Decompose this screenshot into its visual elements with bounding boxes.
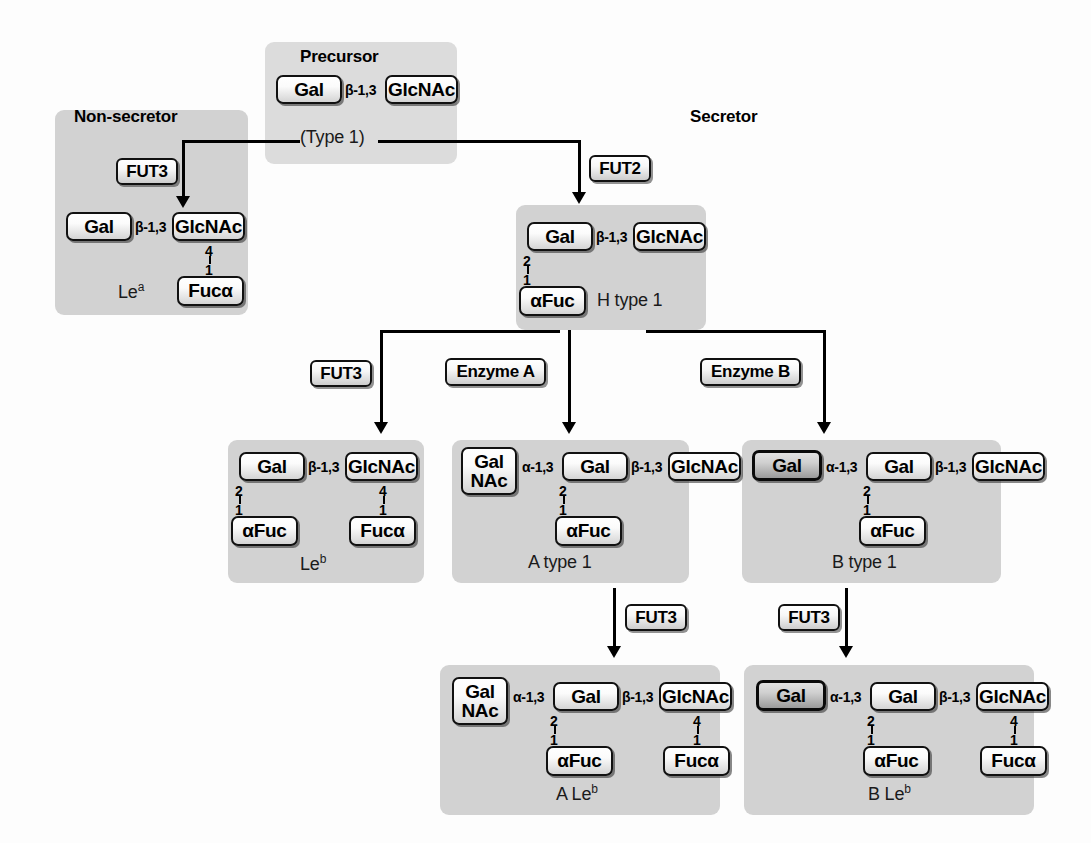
residue-fuc-bleb-left: αFuc [863, 746, 930, 776]
bond-glcnac-fuc-bleb [1014, 726, 1016, 734]
residue-gal-htype1: Gal [527, 222, 593, 251]
connector-atype1-to-aleb [613, 588, 616, 650]
enzyme-fut3-leb[interactable]: FUT3 [310, 360, 372, 387]
linkage-beta13-aleb: β-1,3 [622, 689, 653, 705]
arrowhead-fut3-non-secretor [176, 196, 190, 208]
arrowhead-enzyme-b [817, 422, 831, 434]
numeral-1-atype1: 1 [559, 503, 567, 517]
residue-fuc-leb-left: αFuc [231, 516, 298, 546]
linkage-beta13-btype1: β-1,3 [935, 459, 966, 475]
connector-htype1-branch-right [823, 330, 826, 426]
linkage-beta13-leb: β-1,3 [308, 459, 339, 475]
linkage-beta13-lea: β-1,3 [135, 219, 166, 235]
residue-fuc-atype1: αFuc [555, 516, 622, 546]
linkage-alpha13-bleb: α-1,3 [830, 689, 861, 705]
caption-b-type1: B type 1 [832, 552, 896, 573]
linkage-alpha13-aleb: α-1,3 [513, 689, 544, 705]
bond-gal-fuc-atype1 [563, 496, 565, 504]
numeral-1-btype1: 1 [863, 503, 871, 517]
caption-le-b: Leb [300, 552, 326, 575]
residue-gal-bleb: Gal [870, 682, 936, 711]
residue-gal-b-donor-btype1: Gal [752, 450, 822, 481]
connector-htype1-left [380, 330, 560, 333]
connector-htype1-branch-center [568, 330, 571, 426]
residue-glcnac-atype1: GlcNAc [668, 452, 741, 481]
connector-htype1-branch-left [380, 330, 383, 426]
residue-glcnac-btype1: GlcNAc [972, 452, 1045, 481]
residue-glcnac-aleb: GlcNAc [659, 682, 732, 711]
caption-a-type1: A type 1 [528, 552, 591, 573]
bond-gal-fuc-aleb [554, 726, 556, 734]
heading-non-secretor: Non-secretor [74, 107, 177, 127]
enzyme-a[interactable]: Enzyme A [445, 358, 546, 386]
residue-gal-btype1: Gal [866, 452, 932, 481]
galnac-line2: NAc [470, 471, 507, 490]
arrowhead-fut3-aleb [607, 646, 621, 658]
residue-galnac-atype1: Gal NAc [461, 447, 517, 495]
linkage-beta13-precursor: β-1,3 [345, 82, 376, 98]
residue-fuc-aleb-right: Fucα [663, 746, 730, 776]
linkage-beta13-bleb: β-1,3 [939, 689, 970, 705]
bond-glcnac-fuc-lea [209, 256, 211, 264]
residue-galnac-aleb: Gal NAc [452, 677, 508, 725]
heading-secretor: Secretor [690, 107, 757, 127]
arrowhead-fut2 [572, 192, 586, 204]
caption-le-a: Lea [118, 280, 144, 303]
enzyme-fut2[interactable]: FUT2 [589, 155, 651, 182]
arrowhead-enzyme-a [562, 422, 576, 434]
heading-precursor: Precursor [300, 47, 379, 67]
pathway-diagram: Precursor Non-secretor Secretor Gal β-1,… [0, 0, 1091, 843]
enzyme-fut3-bleb[interactable]: FUT3 [778, 604, 840, 631]
bond-gal-fuc-bleb [871, 726, 873, 734]
residue-glcnac-lea: GlcNAc [172, 212, 245, 241]
enzyme-fut3-non-secretor[interactable]: FUT3 [116, 158, 178, 185]
linkage-alpha13-atype1: α-1,3 [522, 459, 553, 475]
numeral-1-aleb: 1 [550, 733, 558, 747]
residue-glcnac-bleb: GlcNAc [976, 682, 1049, 711]
bond-glcnac-fuc-aleb [697, 726, 699, 734]
bond-glcnac-fuc-leb [383, 496, 385, 504]
numeral-1-htype1: 1 [523, 273, 531, 287]
numeral-1-aleb-right: 1 [693, 733, 701, 747]
residue-glcnac-htype1: GlcNAc [633, 222, 706, 251]
numeral-1-lea: 1 [205, 263, 213, 277]
caption-type1: (Type 1) [300, 127, 364, 148]
caption-h-type1: H type 1 [597, 290, 662, 311]
residue-fuc-lea: Fucα [177, 276, 244, 306]
connector-left-vertical [182, 140, 185, 200]
residue-gal-aleb: Gal [553, 682, 619, 711]
residue-gal-lea: Gal [66, 212, 132, 241]
enzyme-fut3-aleb[interactable]: FUT3 [625, 604, 687, 631]
galnac-line1: Gal [474, 452, 504, 471]
enzyme-b[interactable]: Enzyme B [700, 358, 801, 386]
residue-gal-precursor: Gal [276, 75, 342, 104]
caption-b-le-b: B Leb [868, 782, 911, 805]
residue-glcnac-precursor: GlcNAc [385, 75, 458, 104]
numeral-1-bleb-right: 1 [1010, 733, 1018, 747]
residue-fuc-bleb-right: Fucα [980, 746, 1047, 776]
numeral-1-leb-right: 1 [379, 503, 387, 517]
numeral-1-leb: 1 [235, 503, 243, 517]
numeral-1-bleb: 1 [867, 733, 875, 747]
residue-fuc-leb-right: Fucα [349, 516, 416, 546]
arrowhead-fut3-bleb [839, 646, 853, 658]
galnac-line1: Gal [465, 682, 495, 701]
residue-fuc-htype1: αFuc [519, 286, 586, 316]
residue-gal-leb: Gal [239, 452, 305, 481]
bond-gal-fuc-leb [239, 496, 241, 504]
linkage-beta13-htype1: β-1,3 [596, 229, 627, 245]
connector-btype1-to-bleb [845, 588, 848, 650]
residue-gal-b-donor-bleb: Gal [756, 680, 826, 711]
bond-gal-fuc-btype1 [867, 496, 869, 504]
bond-gal-fuc-htype1 [527, 266, 529, 274]
connector-right-vertical [578, 140, 581, 196]
residue-fuc-btype1: αFuc [859, 516, 926, 546]
residue-glcnac-leb: GlcNAc [345, 452, 418, 481]
caption-a-le-b: A Leb [556, 782, 598, 805]
linkage-alpha13-btype1: α-1,3 [826, 459, 857, 475]
connector-precursor-right [378, 140, 581, 143]
connector-htype1-right [646, 330, 826, 333]
connector-precursor-left [182, 140, 300, 143]
linkage-beta13-atype1: β-1,3 [631, 459, 662, 475]
arrowhead-fut3-leb [374, 422, 388, 434]
